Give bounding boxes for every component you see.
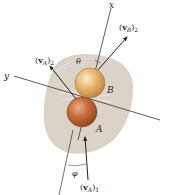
- vA1-label: (vA)1: [80, 182, 99, 193]
- collision-diagram: x y θ B A φ (vB)2 (vA)2 (vA)1: [0, 0, 169, 195]
- phi-arc: [68, 164, 86, 166]
- ball-b: [75, 68, 105, 98]
- theta-label: θ: [76, 57, 81, 66]
- ball-b-label: B: [106, 85, 114, 95]
- x-axis-label: x: [109, 0, 114, 10]
- y-axis-label: y: [3, 71, 10, 81]
- ball-a: [67, 97, 97, 127]
- phi-label: φ: [72, 169, 78, 178]
- ball-a-label: A: [95, 124, 103, 134]
- vB2-label: (vB)2: [119, 22, 138, 33]
- vA2-label: (vA)2: [35, 55, 54, 66]
